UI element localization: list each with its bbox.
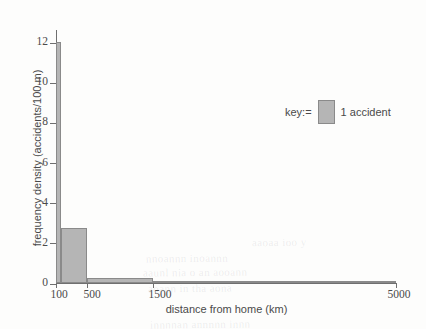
x-tick-label-5000: 5000: [388, 288, 411, 300]
legend-key-label: key:=: [285, 106, 312, 118]
legend-entry-label: 1 accident: [341, 106, 391, 118]
x-tick-label-1500: 1500: [149, 288, 172, 300]
x-tick-label-500: 500: [83, 288, 100, 300]
histogram-bar-100-500: [61, 228, 87, 283]
chart-page: aaoaa ioo y nnoannn inoannn aaunl nia o …: [0, 0, 426, 329]
x-axis-title: distance from home (km): [56, 303, 397, 315]
y-axis-title: frequency density (accidents/100 m): [31, 43, 43, 273]
histogram-bar-1500-5000: [153, 281, 396, 283]
histogram-plot: 12 10 8 6 4 2 0 100 500 1500 5000 freque…: [0, 0, 426, 329]
chart-legend: key:= 1 accident: [285, 100, 391, 124]
y-tick-label-0: 0: [2, 276, 48, 288]
legend-swatch-icon: [318, 100, 335, 124]
histogram-bar-500-1500: [87, 278, 153, 283]
x-tick-label-100: 100: [50, 288, 67, 300]
